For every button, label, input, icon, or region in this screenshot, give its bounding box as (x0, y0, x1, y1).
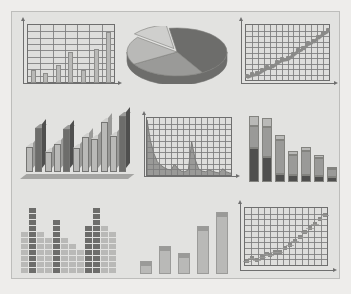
chart-bar-grid[interactable] (19, 18, 119, 86)
matrix-cell (29, 232, 36, 237)
chart-area-spikes[interactable] (140, 112, 240, 182)
bar-cap (198, 227, 208, 231)
bar (68, 52, 73, 83)
matrix-cell (85, 268, 92, 273)
bar-3d (26, 147, 33, 172)
scatter-points (245, 24, 330, 81)
stack-segment-top (275, 135, 285, 140)
matrix-cell (29, 220, 36, 225)
stack-segment-bottom (275, 174, 285, 182)
scatter-point-tick (301, 232, 309, 233)
matrix-cell (21, 256, 28, 261)
bar-front-face (26, 147, 33, 172)
matrix-cell (93, 268, 100, 273)
x-axis (144, 176, 238, 177)
stack-segment-bottom (314, 176, 324, 182)
matrix-cell (85, 244, 92, 249)
chart-scatter-trend[interactable] (237, 18, 335, 86)
matrix-cell (29, 268, 36, 273)
matrix-cell (93, 256, 100, 261)
bar-front-face (54, 144, 61, 172)
chart-scatter-grid[interactable] (236, 202, 336, 276)
bar (56, 65, 61, 83)
scatter-points (244, 207, 328, 266)
bar-3d (82, 137, 89, 172)
bar-3d (63, 129, 70, 172)
collage-panel (11, 11, 340, 279)
grid-line-vertical (177, 118, 178, 175)
chart-stacked-bars[interactable] (248, 108, 338, 186)
bar-3d (91, 139, 98, 172)
matrix-cell (37, 262, 44, 267)
y-axis (23, 21, 24, 83)
matrix-cell (37, 268, 44, 273)
matrix-cell (61, 238, 68, 243)
bar3d-baseplate (20, 172, 132, 179)
matrix-cell (61, 262, 68, 267)
chart-dot-matrix[interactable] (21, 204, 127, 276)
scatter-point-tick (306, 228, 314, 229)
matrix-cell (69, 262, 76, 267)
plot-grid (146, 117, 232, 176)
x-axis (240, 270, 334, 271)
matrix-cell (101, 256, 108, 261)
stack-segment-bottom (262, 157, 272, 182)
scatter-point-tick (266, 255, 274, 256)
matrix-cell (85, 238, 92, 243)
stacked-series (248, 108, 338, 182)
matrix-cell (93, 244, 100, 249)
scatter-point-tick (281, 248, 289, 249)
matrix-cell (29, 244, 36, 249)
matrix-cell (53, 220, 60, 225)
chart-pie-3d[interactable] (125, 26, 229, 84)
matrix-cell (85, 256, 92, 261)
grid-line-vertical (219, 118, 220, 175)
matrix-cell (53, 232, 60, 237)
bar (81, 70, 86, 83)
matrix-cell (77, 256, 84, 261)
scatter-point-tick (253, 260, 261, 261)
matrix-cell (69, 244, 76, 249)
x-axis-arrow-icon (236, 174, 240, 178)
matrix-cells (21, 204, 127, 274)
scatter-point-tick (316, 219, 324, 220)
bar-cap (141, 262, 151, 266)
scatter-point (326, 28, 330, 32)
bar (178, 253, 190, 274)
matrix-cell (45, 244, 52, 249)
matrix-cell (109, 268, 116, 273)
chart-bar-3d[interactable] (20, 112, 132, 182)
matrix-cell (37, 238, 44, 243)
matrix-cell (45, 238, 52, 243)
matrix-cell (85, 250, 92, 255)
bar-3d (54, 144, 61, 172)
matrix-cell (93, 238, 100, 243)
bar-3d (119, 116, 126, 172)
matrix-cell (29, 238, 36, 243)
bar (197, 226, 209, 274)
matrix-cell (53, 244, 60, 249)
matrix-cell (85, 226, 92, 231)
stack-segment-middle (249, 126, 259, 148)
matrix-cell (53, 250, 60, 255)
grid-line-vertical (171, 118, 172, 175)
matrix-cell (21, 268, 28, 273)
matrix-cell (77, 262, 84, 267)
chart-bar-simple[interactable] (136, 204, 232, 276)
bar-series (27, 24, 115, 83)
stack-segment-middle (262, 127, 272, 157)
matrix-cell (69, 250, 76, 255)
matrix-cell (53, 268, 60, 273)
matrix-cell (101, 244, 108, 249)
y-axis (240, 204, 241, 270)
x-axis-arrow-icon (334, 81, 338, 85)
bar-front-face (110, 136, 117, 172)
bar-cap (179, 254, 189, 258)
stack-segment-bottom (327, 177, 337, 182)
bar (31, 70, 36, 83)
chart-collage (0, 0, 351, 294)
bar-side-face (126, 107, 130, 168)
y-axis-arrow-icon (21, 17, 25, 21)
matrix-cell (61, 250, 68, 255)
matrix-cell (101, 268, 108, 273)
